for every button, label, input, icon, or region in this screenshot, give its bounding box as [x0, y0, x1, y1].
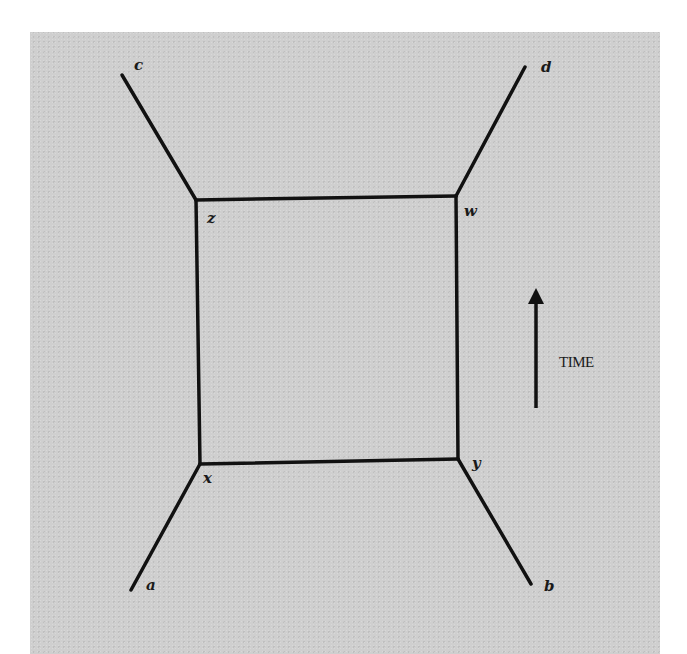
time-axis-label: TIME [559, 354, 594, 370]
label-d: d [541, 58, 552, 76]
edge-d-w [456, 67, 525, 196]
edge-x-a [131, 464, 200, 590]
label-z: z [206, 209, 216, 227]
edge-w-y [456, 196, 458, 459]
edge-y-b [458, 459, 531, 584]
label-w: w [464, 202, 478, 220]
label-c: c [134, 56, 143, 74]
arrow-up-icon [528, 288, 544, 408]
edge-z-w [196, 196, 456, 200]
label-x: x [202, 469, 213, 487]
box-diagram: c d z w x y a b TIME [0, 0, 687, 654]
label-y: y [471, 454, 482, 472]
edge-z-x [196, 200, 200, 464]
label-a: a [146, 576, 156, 594]
label-b: b [544, 577, 555, 595]
edge-x-y [200, 459, 458, 464]
edge-c-z [122, 75, 196, 200]
